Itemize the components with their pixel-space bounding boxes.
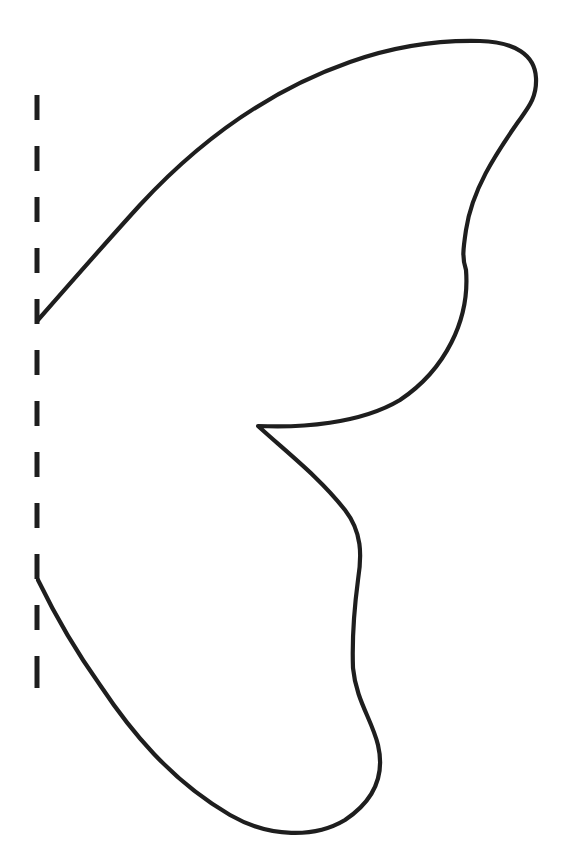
butterfly-template [0,0,561,866]
wing-outline [38,41,536,833]
